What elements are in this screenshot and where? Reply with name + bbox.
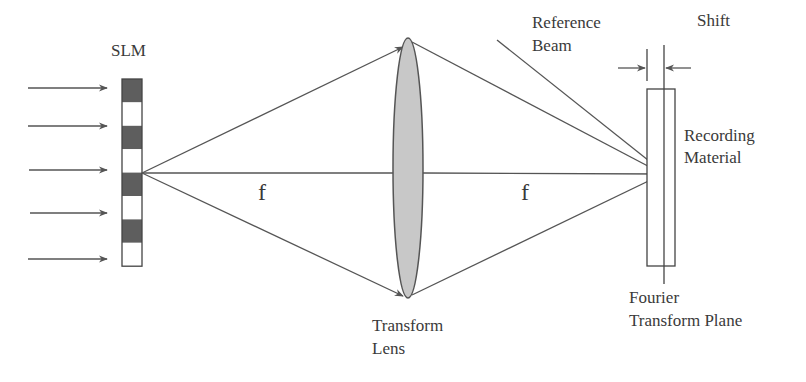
focal-length-label-right: f: [521, 179, 529, 205]
ray-upper-converging: [412, 42, 663, 174]
reference-beam-label-line2: Beam: [532, 36, 572, 55]
rays-lens-to-plane: [412, 42, 663, 295]
fourier-plane-label-line1: Fourier: [629, 288, 679, 307]
slm-cell-dark: [122, 79, 142, 102]
slm-cell-light: [122, 102, 142, 125]
recording-material-label-line1: Recording: [684, 126, 755, 145]
slm-cell-light: [122, 196, 142, 219]
transform-lens-label-line1: Transform: [372, 316, 443, 335]
slm-cell-dark: [122, 126, 142, 149]
ray-lower-converging: [412, 174, 663, 295]
slm-cell-light: [122, 243, 142, 266]
slm-cell-dark: [122, 219, 142, 242]
ray-axis-right: [423, 173, 663, 174]
recording-material: [647, 89, 675, 266]
reference-beam: [497, 40, 663, 172]
shift-label: Shift: [697, 11, 730, 30]
recording-material-label-line2: Material: [684, 148, 742, 167]
reference-beam-label-line1: Reference: [532, 13, 601, 32]
slm: [122, 79, 142, 266]
ray-upper: [142, 47, 403, 173]
shift-indicator: [618, 49, 691, 81]
incident-light-arrows: [28, 88, 107, 259]
slm-cell-light: [122, 149, 142, 172]
focal-length-label-left: f: [258, 179, 266, 205]
slm-cell-dark: [122, 173, 142, 196]
ray-lower: [142, 173, 403, 296]
transform-lens-label-line2: Lens: [372, 339, 405, 358]
transform-lens: [393, 38, 423, 298]
slm-label: SLM: [111, 41, 146, 60]
fourier-holography-diagram: SLM f f Reference Beam Shift R: [0, 0, 806, 382]
rays-slm-to-lens: [142, 47, 403, 296]
fourier-plane-label-line2: Transform Plane: [629, 311, 742, 330]
